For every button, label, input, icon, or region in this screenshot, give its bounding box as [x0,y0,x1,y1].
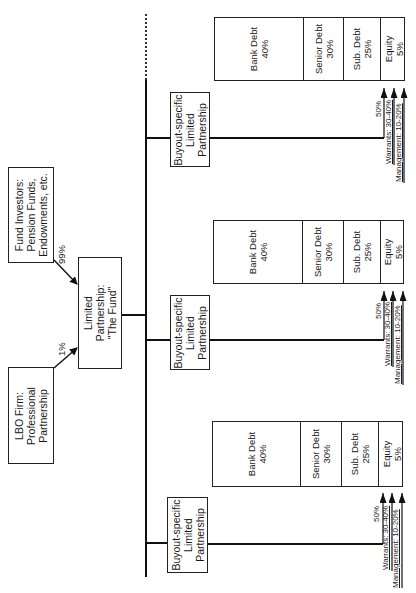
owner-management-label: Management: 10-20% [391,509,400,588]
owner-warrants-label: Warrants: 30-40% [381,506,390,570]
equity-arrows [0,0,416,593]
owner-sponsor-label: 50% [372,506,381,522]
